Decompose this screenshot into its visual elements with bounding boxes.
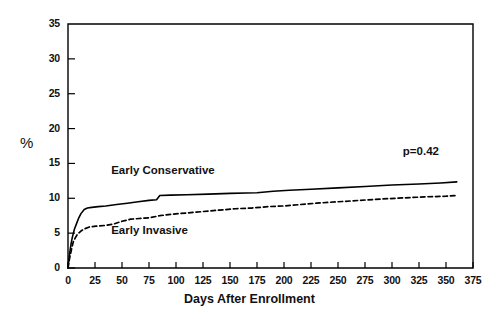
y-tick-label: 5 bbox=[28, 226, 60, 238]
y-axis-ticks bbox=[68, 59, 75, 268]
y-tick-label: 35 bbox=[28, 17, 60, 29]
y-tick-label: 10 bbox=[28, 191, 60, 203]
y-tick-label: 25 bbox=[28, 87, 60, 99]
x-axis-ticks bbox=[68, 262, 473, 268]
y-axis-title: % bbox=[20, 134, 33, 151]
series-label-early-invasive: Early Invasive bbox=[111, 224, 188, 236]
survival-curve-chart bbox=[0, 0, 499, 319]
x-tick-label: 375 bbox=[457, 274, 489, 286]
y-tick-label: 20 bbox=[28, 122, 60, 134]
p-value-annotation: p=0.42 bbox=[403, 145, 439, 157]
y-tick-label: 30 bbox=[28, 52, 60, 64]
x-axis-title: Days After Enrollment bbox=[0, 292, 499, 306]
y-tick-label: 15 bbox=[28, 156, 60, 168]
y-tick-label: 0 bbox=[28, 261, 60, 273]
series-label-early-conservative: Early Conservative bbox=[111, 164, 215, 176]
chart-figure: % Days After Enrollment Early Conservati… bbox=[0, 0, 499, 319]
